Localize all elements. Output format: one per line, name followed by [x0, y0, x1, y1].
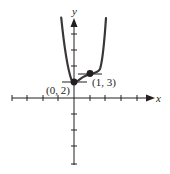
point-0-2 [71, 79, 78, 86]
function-graph: x y (0, 2) (1, 3) [0, 0, 170, 174]
x-axis-arrow-icon [146, 95, 155, 102]
x-axis: x [12, 92, 161, 104]
y-axis-label: y [71, 5, 77, 17]
x-axis-label: x [155, 92, 161, 104]
point-label-1-3: (1, 3) [92, 76, 116, 89]
y-axis-arrow-icon [71, 18, 78, 27]
function-curve [61, 18, 106, 83]
point-label-0-2: (0, 2) [46, 84, 70, 97]
